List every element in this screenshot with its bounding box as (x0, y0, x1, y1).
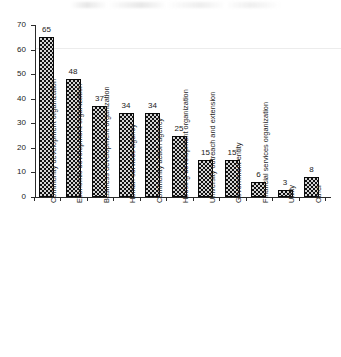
y-tick-label-10: 10 (8, 168, 26, 176)
y-tick-label-0: 0 (8, 193, 26, 201)
x-tick (246, 197, 247, 201)
y-tick-50 (31, 74, 35, 75)
x-tick (113, 197, 114, 201)
x-category-label: Other (315, 185, 323, 203)
y-tick-label-20: 20 (8, 144, 26, 152)
x-tick (166, 197, 167, 201)
bar-value-label: 65 (34, 26, 60, 34)
y-tick-30 (31, 123, 35, 124)
y-tick-40 (31, 99, 35, 100)
y-tick-10 (31, 172, 35, 173)
scan-artifact-gridline (36, 48, 341, 49)
x-category-label: Community development organization (50, 79, 58, 203)
x-category-label: Utility (288, 185, 296, 203)
bar-value-label: 8 (299, 166, 325, 174)
x-tick (299, 197, 300, 201)
bar-value-label: 34 (140, 102, 166, 110)
bar-value-label: 48 (60, 68, 86, 76)
bar-value-label: 34 (113, 102, 139, 110)
x-tick (140, 197, 141, 201)
x-category-label: Economic development organization (76, 84, 84, 203)
y-tick-60 (31, 50, 35, 51)
y-tick-label-60: 60 (8, 46, 26, 54)
x-tick (34, 197, 35, 201)
x-tick (219, 197, 220, 201)
x-tick (60, 197, 61, 201)
x-tick (87, 197, 88, 201)
x-tick (325, 197, 326, 201)
x-category-label: Housing development organization (182, 89, 190, 203)
x-tick (272, 197, 273, 201)
bar-chart: 010203040506070 6548373434251515638 Comm… (0, 0, 341, 357)
scan-artifact-top (70, 2, 280, 8)
y-tick-20 (31, 148, 35, 149)
x-category-label: University outreach and extension (209, 92, 217, 203)
x-tick (193, 197, 194, 201)
y-tick-label-50: 50 (8, 70, 26, 78)
y-tick-label-30: 30 (8, 119, 26, 127)
y-tick-label-40: 40 (8, 95, 26, 103)
x-category-label: Government entity (235, 143, 243, 203)
y-axis-line (35, 25, 36, 197)
x-category-label: Business development organization (103, 86, 111, 203)
x-category-label: Financial services organization (262, 102, 270, 203)
x-category-label: Community action agency (156, 118, 164, 203)
x-category-label: Human services agency (129, 124, 137, 203)
y-tick-label-70: 70 (8, 21, 26, 29)
